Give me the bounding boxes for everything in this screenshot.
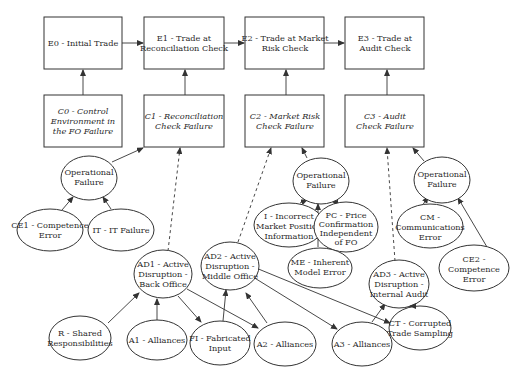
condition-C0: C0 - Control Environment in the FO Failu… bbox=[44, 95, 122, 147]
event-E1: E1 - Trade at Reconciliation Check bbox=[140, 17, 229, 69]
input-A2-label: A2 - Alliances bbox=[256, 339, 314, 349]
opfail-2-label-1: Operational bbox=[296, 170, 346, 180]
cause-PC-label-4: of FO bbox=[335, 237, 358, 247]
condition-C2: C2 - Market Risk Check Failure bbox=[245, 95, 324, 147]
cause-CM-label-1: CM - bbox=[420, 212, 440, 222]
opfail-2-label-2: Failure bbox=[306, 180, 335, 190]
operational-failure-2: Operational Failure bbox=[293, 158, 349, 204]
disruption-AD3-label-2: Disruption - bbox=[374, 279, 424, 289]
input-FI-label-1: FI - Fabricated bbox=[189, 333, 251, 343]
disruption-AD3-label-1: AD3 - Active bbox=[372, 269, 425, 279]
input-R-label-1: R - Shared bbox=[58, 328, 102, 338]
input-CT-label-1: CT - Corrupted bbox=[389, 318, 452, 328]
condition-C1: C1 - Reconciliation Check Failure bbox=[144, 95, 224, 147]
input-A1: A1 - Alliances bbox=[127, 320, 187, 360]
cause-CE1: CE1 - Competence Error bbox=[11, 209, 88, 251]
disruption-AD3-label-3: Internal Audit bbox=[370, 289, 429, 299]
event-E3: E3 - Trade at Audit Check bbox=[345, 17, 424, 69]
condition-C2-label-2: Check Failure bbox=[256, 121, 314, 131]
event-E3-label-2: Audit Check bbox=[359, 43, 412, 53]
input-R: R - Shared Responsibilities bbox=[47, 316, 113, 360]
cause-CM: CM - Communications Error bbox=[395, 204, 465, 248]
cause-CE1-label-2: Error bbox=[39, 230, 62, 240]
event-E2-label-2: Risk Check bbox=[262, 43, 310, 53]
cause-IT: IT - IT Failure bbox=[88, 209, 154, 251]
condition-C0-label-1: C0 - Control bbox=[58, 106, 109, 116]
condition-C1-label-1: C1 - Reconciliation bbox=[145, 111, 224, 121]
input-A3-label: A3 - Alliances bbox=[333, 339, 391, 349]
cause-I-label-3: Information bbox=[264, 231, 314, 241]
cause-ME: ME - Inherent Model Error bbox=[288, 248, 352, 288]
cause-CE2-label-2: Competence bbox=[448, 264, 500, 274]
disruption-AD1-label-2: Disruption - bbox=[138, 269, 188, 279]
input-CT: CT - Corrupted Trade Sampling bbox=[387, 306, 453, 350]
disruption-AD2-label-1: AD2 - Active bbox=[203, 251, 256, 261]
cause-CE2-label-3: Error bbox=[463, 274, 486, 284]
event-E0-label: E0 - Initial Trade bbox=[48, 38, 119, 48]
condition-C3-label-1: C3 - Audit bbox=[364, 111, 406, 121]
disruption-AD1: AD1 - Active Disruption - Back Office bbox=[134, 250, 192, 298]
condition-C2-label-1: C2 - Market Risk bbox=[250, 111, 320, 121]
input-FI-label-2: Input bbox=[209, 343, 232, 353]
disruption-AD2: AD2 - Active Disruption - Middle Office bbox=[201, 242, 259, 290]
cause-I: I - Incorrect Market Position Informatio… bbox=[254, 203, 324, 247]
disruption-AD3: AD3 - Active Disruption - Internal Audit bbox=[369, 260, 429, 308]
cause-CE2-label-1: CE2 - bbox=[463, 254, 486, 264]
condition-C3: C3 - Audit Check Failure bbox=[345, 95, 424, 147]
cause-CE2: CE2 - Competence Error bbox=[439, 245, 509, 291]
operational-failure-1: Operational Failure bbox=[61, 156, 117, 200]
cause-CM-label-2: Communications bbox=[395, 222, 465, 232]
disruption-AD2-label-2: Disruption - bbox=[205, 261, 255, 271]
input-A1-label: A1 - Alliances bbox=[128, 335, 186, 345]
disruption-AD1-label-1: AD1 - Active bbox=[136, 259, 189, 269]
event-chain-edges bbox=[83, 43, 387, 95]
opfail-3-label-1: Operational bbox=[417, 169, 467, 179]
event-E2-label-1: E2 - Trade at Market bbox=[241, 33, 329, 43]
disruption-AD1-label-3: Back Office bbox=[139, 279, 187, 289]
cause-I-label-2: Market Position bbox=[256, 221, 323, 231]
input-A2: A2 - Alliances bbox=[254, 322, 316, 366]
cause-CE1-label-1: CE1 - Competence bbox=[11, 220, 88, 230]
opfail-1-label-1: Operational bbox=[64, 167, 114, 177]
cause-CM-label-3: Error bbox=[419, 232, 442, 242]
cause-IT-label: IT - IT Failure bbox=[92, 225, 149, 235]
operational-failure-3: Operational Failure bbox=[414, 157, 470, 203]
cause-ME-label-2: Model Error bbox=[294, 267, 345, 277]
condition-C0-label-3: the FO Failure bbox=[53, 126, 113, 136]
input-FI: FI - Fabricated Input bbox=[189, 321, 251, 365]
event-E3-label-1: E3 - Trade at bbox=[358, 33, 413, 43]
opfail-1-label-2: Failure bbox=[74, 177, 103, 187]
condition-C0-label-2: Environment in bbox=[50, 116, 115, 126]
cause-ME-label-1: ME - Inherent bbox=[291, 257, 350, 267]
cause-I-label-1: I - Incorrect bbox=[264, 211, 314, 221]
event-E2: E2 - Trade at Market Risk Check bbox=[241, 17, 329, 69]
trade-failure-diagram: E0 - Initial Trade E1 - Trade at Reconci… bbox=[0, 0, 526, 378]
event-E1-label-1: E1 - Trade at bbox=[157, 33, 212, 43]
opfail-3-label-2: Failure bbox=[427, 179, 456, 189]
disruption-AD2-label-3: Middle Office bbox=[202, 271, 258, 281]
condition-C3-label-2: Check Failure bbox=[356, 121, 414, 131]
condition-C1-label-2: Check Failure bbox=[155, 121, 213, 131]
event-E0: E0 - Initial Trade bbox=[44, 17, 122, 69]
input-CT-label-2: Trade Sampling bbox=[387, 328, 453, 338]
cause-PC: PC - Price Confirmation Independent of F… bbox=[314, 202, 378, 252]
event-E1-label-2: Reconciliation Check bbox=[140, 43, 229, 53]
input-A3: A3 - Alliances bbox=[332, 322, 392, 366]
input-R-label-2: Responsibilities bbox=[47, 338, 113, 348]
